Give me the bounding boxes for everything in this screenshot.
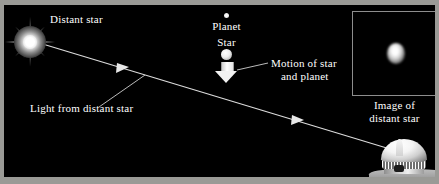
light-from-distant-star-label: Light from distant star bbox=[30, 102, 133, 114]
planet-label: Planet bbox=[203, 20, 250, 32]
star-core bbox=[23, 35, 37, 49]
observatory-doorway bbox=[394, 165, 404, 172]
planet-dot bbox=[224, 13, 229, 18]
observatory-slit bbox=[396, 139, 403, 156]
motion-label-leader-line bbox=[237, 63, 268, 70]
star-dot bbox=[221, 49, 232, 60]
microlensing-diagram: Distant star Light from distant star Pla… bbox=[0, 0, 439, 184]
inset-caption-line1: Image of bbox=[352, 99, 435, 111]
observatory-dome bbox=[375, 142, 435, 177]
light-ray-arrowhead-2 bbox=[291, 115, 304, 125]
star-image-blob bbox=[387, 43, 405, 64]
star-label: Star bbox=[203, 36, 250, 48]
light-ray-arrowhead-1 bbox=[116, 63, 129, 73]
distant-star-label: Distant star bbox=[50, 13, 103, 25]
distant-star bbox=[5, 17, 55, 67]
motion-arrow-head bbox=[215, 71, 237, 83]
inset-caption-line2: distant star bbox=[352, 112, 435, 124]
motion-label-line2: and planet bbox=[281, 70, 329, 82]
sky-panel: Distant star Light from distant star Pla… bbox=[4, 5, 435, 177]
observatory-dome-cap bbox=[381, 139, 427, 162]
motion-arrow-icon bbox=[215, 62, 238, 83]
inset-image-box bbox=[352, 11, 435, 96]
motion-label-line1: Motion of star bbox=[271, 57, 337, 69]
